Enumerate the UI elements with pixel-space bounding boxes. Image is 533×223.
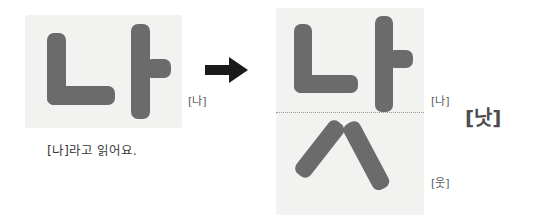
glyph-siot-right-stroke — [341, 119, 392, 193]
syllable-nat-panel: 나 ㅅ — [276, 8, 424, 215]
glyph-a-tick-stroke — [388, 50, 413, 68]
right-top-glyph-text: 나 — [276, 8, 277, 9]
syllable-na-panel: 나 — [25, 15, 182, 128]
glyph-siot-left-stroke — [292, 117, 347, 180]
right-bottom-reading-label: [웃] — [431, 178, 450, 189]
left-reading-label: [나] — [188, 96, 207, 107]
right-arrow-icon — [203, 54, 251, 86]
figure-root: 나 [나] [나]라고 읽어요. 나 ㅅ [나] [낫] [웃] — [0, 0, 533, 223]
glyph-a-tick-stroke — [145, 59, 171, 78]
panel-divider — [276, 112, 424, 113]
left-glyph-text: 나 — [25, 15, 26, 16]
right-top-reading-label: [나] — [431, 96, 450, 107]
glyph-nieun-horizontal-stroke — [294, 75, 358, 93]
left-caption: [나]라고 읽어요. — [47, 145, 137, 158]
right-bottom-glyph-text: ㅅ — [276, 8, 277, 9]
glyph-nieun-horizontal-stroke — [47, 86, 115, 105]
right-result-reading-label: [낫] — [465, 108, 501, 128]
